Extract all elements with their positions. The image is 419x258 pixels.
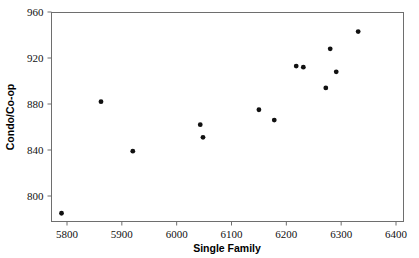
- chart-background: [0, 0, 419, 258]
- data-point: [59, 211, 64, 216]
- y-tick-label: 920: [27, 52, 44, 64]
- x-tick-label: 5800: [56, 228, 79, 240]
- data-point: [272, 118, 277, 123]
- x-tick-label: 6400: [385, 228, 408, 240]
- x-tick-label: 6300: [330, 228, 353, 240]
- data-point: [257, 107, 262, 112]
- x-axis-title: Single Family: [193, 242, 261, 254]
- y-axis-title: Condo/Co-op: [4, 84, 16, 150]
- x-tick-label: 5900: [111, 228, 134, 240]
- scatter-chart: 5800590060006100620063006400 80084088092…: [0, 0, 419, 258]
- y-tick-label: 840: [27, 144, 44, 156]
- data-point: [294, 64, 299, 69]
- y-tick-label: 880: [27, 98, 44, 110]
- x-tick-label: 6200: [275, 228, 298, 240]
- y-tick-label: 800: [27, 190, 44, 202]
- data-point: [130, 149, 135, 154]
- x-tick-label: 6000: [166, 228, 189, 240]
- data-point: [323, 86, 328, 91]
- y-tick-label: 960: [27, 6, 44, 18]
- data-point: [334, 69, 339, 74]
- data-point: [328, 46, 333, 51]
- data-point: [356, 29, 361, 34]
- data-point: [301, 65, 306, 70]
- data-point: [99, 99, 104, 104]
- x-tick-label: 6100: [221, 228, 244, 240]
- chart-canvas: 5800590060006100620063006400 80084088092…: [0, 0, 419, 258]
- data-point: [201, 135, 206, 140]
- data-point: [198, 122, 203, 127]
